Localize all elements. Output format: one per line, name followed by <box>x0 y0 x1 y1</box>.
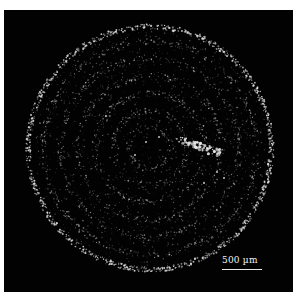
scale-bar <box>222 269 262 270</box>
micrograph-frame: 500 µm <box>4 10 293 292</box>
micrograph-image <box>4 10 293 292</box>
scale-bar-label: 500 µm <box>222 255 258 265</box>
